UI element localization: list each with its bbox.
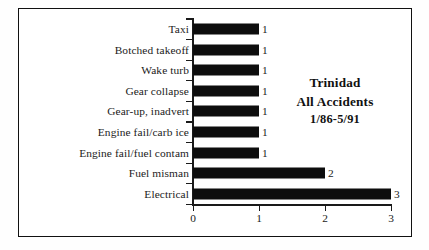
title-line-1: Trinidad bbox=[262, 74, 408, 93]
y-tick bbox=[186, 18, 193, 19]
x-tick bbox=[391, 204, 392, 211]
y-tick bbox=[186, 142, 193, 143]
y-tick bbox=[186, 80, 193, 81]
x-tick bbox=[193, 204, 194, 211]
x-tick bbox=[259, 204, 260, 211]
bar-row: Botched takeoff1 bbox=[0, 40, 429, 60]
title-line-2: All Accidents bbox=[262, 93, 408, 112]
bar bbox=[193, 44, 259, 55]
plot-area: Taxi1Botched takeoff1Wake turb1Gear coll… bbox=[0, 0, 429, 250]
category-label: Wake turb bbox=[141, 64, 189, 76]
bar-row: Electrical3 bbox=[0, 184, 429, 204]
bar-value-label: 1 bbox=[262, 147, 268, 159]
bar-value-label: 3 bbox=[394, 188, 400, 200]
bar bbox=[193, 188, 391, 199]
y-tick bbox=[186, 204, 193, 205]
bar-row: Fuel misman2 bbox=[0, 163, 429, 183]
x-tick-label: 0 bbox=[190, 212, 196, 224]
category-label: Botched takeoff bbox=[115, 44, 189, 56]
y-tick bbox=[186, 183, 193, 184]
y-tick bbox=[186, 101, 193, 102]
category-label: Taxi bbox=[169, 23, 189, 35]
title-line-3: 1/86-5/91 bbox=[262, 111, 408, 129]
category-label: Engine fail/carb ice bbox=[98, 126, 189, 138]
bar bbox=[193, 168, 325, 179]
category-label: Fuel misman bbox=[129, 167, 189, 179]
x-axis-line bbox=[192, 204, 392, 206]
bar-row: Taxi1 bbox=[0, 19, 429, 39]
bar-row: Engine fail/fuel contam1 bbox=[0, 143, 429, 163]
chart-title-block: Trinidad All Accidents 1/86-5/91 bbox=[262, 74, 408, 129]
bar bbox=[193, 65, 259, 76]
bar-value-label: 2 bbox=[328, 167, 334, 179]
y-tick bbox=[186, 121, 193, 122]
x-tick bbox=[325, 204, 326, 211]
category-label: Gear-up, inadvert bbox=[107, 105, 189, 117]
x-tick-label: 3 bbox=[388, 212, 394, 224]
category-label: Electrical bbox=[144, 188, 189, 200]
bar bbox=[193, 147, 259, 158]
y-tick bbox=[186, 39, 193, 40]
category-label: Gear collapse bbox=[125, 85, 189, 97]
bar-value-label: 1 bbox=[262, 23, 268, 35]
category-label: Engine fail/fuel contam bbox=[79, 147, 189, 159]
bar bbox=[193, 106, 259, 117]
bar bbox=[193, 24, 259, 35]
y-tick bbox=[186, 163, 193, 164]
bar bbox=[193, 85, 259, 96]
bar-value-label: 1 bbox=[262, 44, 268, 56]
chart-image: Taxi1Botched takeoff1Wake turb1Gear coll… bbox=[0, 0, 429, 250]
x-tick-label: 1 bbox=[256, 212, 262, 224]
bar bbox=[193, 127, 259, 138]
y-tick bbox=[186, 60, 193, 61]
x-tick-label: 2 bbox=[322, 212, 328, 224]
